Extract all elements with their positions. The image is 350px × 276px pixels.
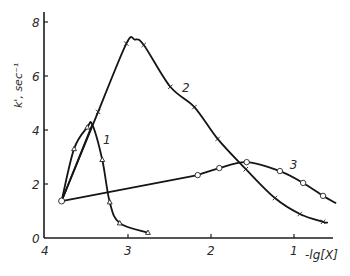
kinetics-chart: 432102468123 k', sec⁻¹ -lg[X] bbox=[0, 0, 350, 276]
labels: 432102468123 bbox=[32, 16, 298, 258]
circle-marker bbox=[195, 172, 200, 177]
y-tick-label: 6 bbox=[32, 70, 40, 84]
circle-marker bbox=[320, 193, 325, 198]
circle-marker bbox=[59, 198, 65, 204]
y-tick-label: 8 bbox=[32, 16, 40, 30]
x-tick-label: 2 bbox=[207, 244, 215, 258]
x-tick-label: 4 bbox=[41, 244, 49, 258]
curve-label-3: 3 bbox=[290, 158, 298, 172]
x-tick-label: 1 bbox=[290, 244, 298, 258]
curve-label-1: 1 bbox=[103, 133, 111, 147]
circle-marker bbox=[277, 168, 282, 173]
triangle-marker bbox=[107, 199, 112, 203]
circle-marker bbox=[300, 180, 305, 185]
y-tick-label: 4 bbox=[32, 124, 40, 138]
y-axis-label: k', sec⁻¹ bbox=[12, 63, 25, 108]
circle-marker bbox=[244, 159, 249, 164]
x-axis-label: -lg[X] bbox=[305, 248, 338, 262]
curve-2 bbox=[62, 37, 328, 223]
y-tick-label: 2 bbox=[32, 178, 40, 192]
x-tick-label: 3 bbox=[124, 244, 132, 258]
curve-label-2: 2 bbox=[182, 81, 190, 95]
triangle-marker bbox=[100, 157, 105, 161]
circle-marker bbox=[217, 165, 222, 170]
y-tick-label: 0 bbox=[32, 232, 40, 246]
triangle-marker bbox=[146, 230, 151, 234]
